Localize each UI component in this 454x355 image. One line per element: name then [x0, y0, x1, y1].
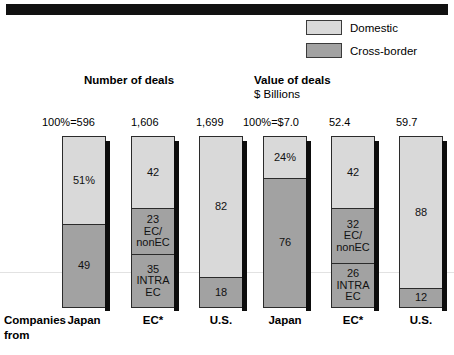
- segment-right-ec-ecnonec: 32 EC/ nonEC: [332, 208, 374, 263]
- legend: Domestic Cross-border: [306, 20, 446, 66]
- panel-subtitle-value-of-deals: $ Billions: [254, 88, 300, 100]
- category-label-right-us: U.S.: [399, 314, 443, 326]
- legend-swatch-domestic: [306, 20, 342, 35]
- segment-right-us-domestic: 88: [400, 137, 442, 288]
- segment-left-japan-cross-border: 49: [63, 224, 105, 307]
- bar-right-ec: 42 32 EC/ nonEC 26 INTRA EC: [331, 136, 375, 308]
- category-label-left-japan: Japan: [62, 314, 106, 326]
- category-label-left-ec: EC*: [131, 314, 175, 326]
- bar-left-japan: 51% 49: [62, 136, 106, 308]
- category-label-right-japan: Japan: [263, 314, 307, 326]
- total-label-right-japan: 100%=$7.0: [243, 116, 299, 128]
- header-rule: [6, 4, 448, 15]
- segment-left-ec-domestic: 42: [132, 137, 174, 208]
- axis-label-line-2: from: [4, 328, 66, 343]
- segment-right-ec-intraec: 26 INTRA EC: [332, 263, 374, 307]
- bar-right-us: 88 12: [399, 136, 443, 308]
- segment-right-japan-cross-border: 76: [264, 178, 306, 307]
- axis-label-line-1: Companies: [4, 313, 66, 328]
- total-label-right-ec: 52.4: [329, 116, 350, 128]
- segment-left-japan-domestic: 51%: [63, 137, 105, 224]
- legend-item-cross-border: Cross-border: [306, 43, 446, 58]
- total-label-left-us: 1,699: [196, 116, 224, 128]
- category-label-left-us: U.S.: [199, 314, 243, 326]
- category-label-right-ec: EC*: [331, 314, 375, 326]
- segment-left-us-cross-border: 18: [200, 277, 242, 307]
- total-label-left-ec: 1,606: [131, 116, 159, 128]
- legend-label-domestic: Domestic: [350, 22, 398, 34]
- bar-left-us: 82 18: [199, 136, 243, 308]
- segment-left-ec-ecnonec: 23 EC/ nonEC: [132, 208, 174, 254]
- segment-left-ec-intraec: 35 INTRA EC: [132, 254, 174, 307]
- segment-right-ec-domestic: 42: [332, 137, 374, 208]
- segment-right-japan-domestic: 24%: [264, 137, 306, 178]
- legend-label-cross-border: Cross-border: [350, 45, 417, 57]
- total-label-right-us: 59.7: [396, 116, 417, 128]
- bar-right-japan: 24% 76: [263, 136, 307, 308]
- bar-left-ec: 42 23 EC/ nonEC 35 INTRA EC: [131, 136, 175, 308]
- legend-swatch-cross-border: [306, 43, 342, 58]
- panel-title-number-of-deals: Number of deals: [84, 74, 174, 86]
- segment-left-us-domestic: 82: [200, 137, 242, 277]
- axis-label-companies-from: Companies from: [4, 313, 66, 343]
- panel-title-value-of-deals: Value of deals: [254, 74, 331, 86]
- total-label-left-japan: 100%=596: [42, 116, 95, 128]
- segment-right-us-cross-border: 12: [400, 288, 442, 307]
- legend-item-domestic: Domestic: [306, 20, 446, 35]
